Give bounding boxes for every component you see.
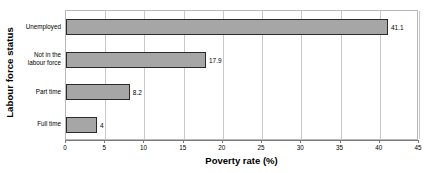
x-tick-label: 35	[336, 144, 343, 151]
x-tick-mark	[261, 140, 262, 143]
bar-row: 8.2	[66, 84, 419, 100]
bar-value-label: 41.1	[388, 24, 403, 31]
x-tick-label: 25	[258, 144, 265, 151]
x-tick-mark	[222, 140, 223, 143]
x-tick-label: 40	[375, 144, 382, 151]
x-tick-label: 30	[297, 144, 304, 151]
bar-value-label: 17.9	[206, 56, 221, 63]
bar-value-label: 4	[97, 121, 103, 128]
y-tick-line: labour force	[17, 59, 61, 67]
bar[interactable]	[66, 52, 206, 68]
x-tick-mark	[183, 140, 184, 143]
x-tick-mark	[418, 140, 419, 143]
x-tick-mark	[143, 140, 144, 143]
y-tick-line: Unemployed	[17, 23, 61, 31]
x-tick-mark	[379, 140, 380, 143]
x-tick-label: 0	[63, 144, 67, 151]
x-tick-label: 15	[179, 144, 186, 151]
x-tick-mark	[340, 140, 341, 143]
bar-chart: Labour force status Full timePart timeNo…	[0, 0, 429, 173]
bar[interactable]	[66, 84, 130, 100]
y-tick-label: Not in thelabour force	[17, 51, 61, 66]
y-tick-line: Full time	[17, 120, 61, 128]
y-axis-title: Labour force status	[0, 0, 18, 145]
x-tick-mark	[104, 140, 105, 143]
y-tick-label: Full time	[17, 120, 61, 128]
bar-row: 4	[66, 117, 419, 133]
x-tick-mark	[65, 140, 66, 143]
y-tick-line: Not in the	[17, 51, 61, 59]
x-tick-label: 5	[102, 144, 106, 151]
x-axis-line	[65, 140, 418, 141]
bar[interactable]	[66, 117, 97, 133]
y-axis-title-text: Labour force status	[4, 27, 15, 118]
y-tick-line: Part time	[17, 88, 61, 96]
x-tick-label: 45	[414, 144, 421, 151]
plot-area: 48.217.941.1	[65, 10, 418, 140]
bar-value-label: 8.2	[130, 89, 142, 96]
bar[interactable]	[66, 19, 388, 35]
y-tick-label: Part time	[17, 88, 61, 96]
bar-row: 17.9	[66, 52, 419, 68]
bars-layer: 48.217.941.1	[66, 11, 417, 139]
gridline	[419, 11, 420, 139]
y-axis-tick-labels: Full timePart timeNot in thelabour force…	[18, 10, 64, 140]
x-tick-label: 20	[218, 144, 225, 151]
y-tick-label: Unemployed	[17, 23, 61, 31]
bar-row: 41.1	[66, 19, 419, 35]
x-axis-title: Poverty rate (%)	[65, 155, 418, 166]
x-tick-mark	[300, 140, 301, 143]
x-tick-label: 10	[140, 144, 147, 151]
